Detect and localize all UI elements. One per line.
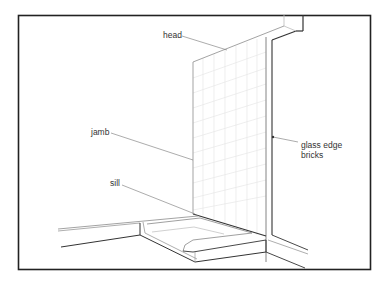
sill-leader: [122, 185, 195, 214]
glass-edge-marker: [272, 136, 274, 138]
floor-and-sill: [58, 216, 305, 268]
label-glass-edge-line2: bricks: [301, 150, 323, 160]
label-head: head: [163, 30, 182, 40]
leader-lines: [111, 36, 298, 214]
glass-edge-leader: [273, 137, 298, 142]
label-sill: sill: [110, 178, 120, 188]
head-leader: [182, 36, 227, 50]
label-glass-edge-line1: glass edge: [301, 140, 342, 150]
ceiling-soffit: [193, 15, 303, 62]
glass-block-grid: [193, 39, 266, 235]
jamb-leader: [111, 133, 193, 160]
label-jamb: jamb: [91, 127, 109, 137]
